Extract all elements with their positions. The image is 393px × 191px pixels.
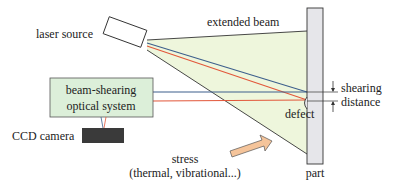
stress-arrow-icon — [230, 135, 272, 157]
part-block — [307, 8, 323, 164]
laser-source-icon — [103, 17, 147, 48]
shearing-arrow-down-icon — [331, 81, 335, 92]
shearography-diagram: laser source extended beam beam-shearing… — [0, 0, 393, 191]
beam-shearing-label-line1: beam-shearing — [66, 83, 137, 97]
stress-label-line2: (thermal, vibrational...) — [129, 166, 241, 180]
laser-source-label: laser source — [36, 27, 93, 41]
extended-beam-label: extended beam — [207, 15, 280, 29]
camera-wire-red — [104, 117, 106, 128]
stress-label-line1: stress — [172, 152, 199, 166]
shearing-arrow-up-icon — [331, 101, 335, 112]
camera-wire-blue — [101, 117, 103, 128]
defect-label: defect — [285, 107, 315, 121]
part-label: part — [306, 166, 325, 180]
shearing-distance-label-line2: distance — [341, 95, 380, 109]
ccd-camera-label: CCD camera — [12, 129, 75, 143]
shearing-distance-label-line1: shearing — [341, 81, 382, 95]
beam-shearing-label-line2: optical system — [67, 99, 137, 113]
ccd-camera-icon — [82, 128, 124, 143]
